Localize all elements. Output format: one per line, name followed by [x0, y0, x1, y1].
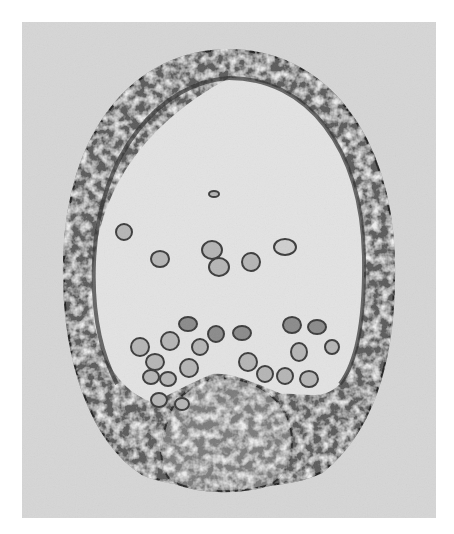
micrograph-photo — [22, 22, 436, 518]
film-grain — [22, 22, 436, 518]
embryo-illustration — [22, 22, 436, 518]
